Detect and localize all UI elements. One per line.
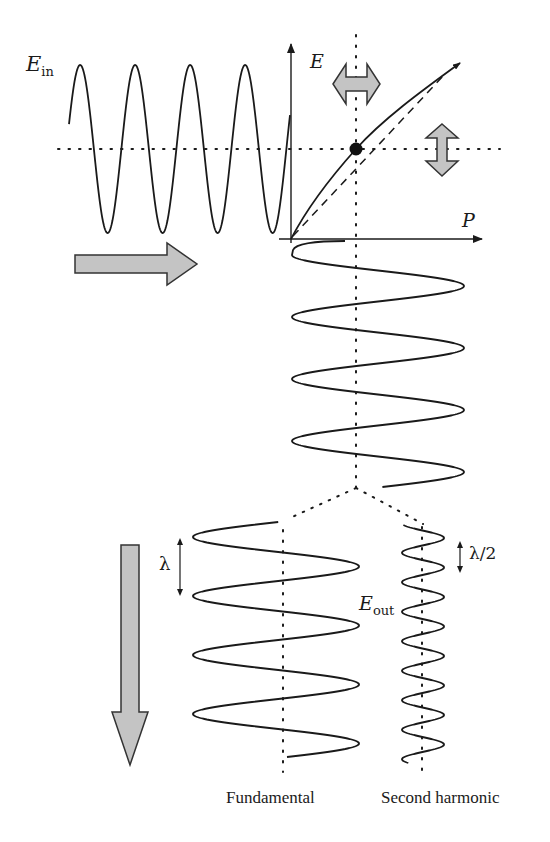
e-in-symbol: E bbox=[26, 52, 41, 76]
half-lambda-label: λ/2 bbox=[469, 543, 496, 563]
p-axis-label: P bbox=[462, 209, 475, 231]
operating-point-dot bbox=[350, 143, 363, 156]
e-out-symbol: E bbox=[359, 592, 373, 614]
lambda-label: λ bbox=[159, 553, 170, 574]
fundamental-caption: Fundamental bbox=[226, 788, 315, 808]
output-polarization-wave bbox=[292, 241, 464, 487]
e-out-label: Eout bbox=[359, 592, 394, 614]
right-arrow-icon bbox=[75, 243, 197, 285]
second-harmonic-caption: Second harmonic bbox=[381, 788, 500, 808]
fundamental-wave bbox=[193, 522, 359, 757]
e-out-subscript: out bbox=[373, 603, 394, 618]
nonlinear-polarization-diagram bbox=[0, 0, 550, 842]
split-dotted-left bbox=[290, 488, 356, 518]
e-axis-label: E bbox=[310, 50, 324, 72]
e-in-label: Ein bbox=[26, 52, 54, 76]
down-arrow-icon bbox=[112, 545, 148, 765]
half-lambda-marker-icon bbox=[457, 541, 463, 573]
split-dotted-right bbox=[356, 488, 423, 524]
e-in-subscript: in bbox=[41, 64, 54, 79]
lambda-marker-icon bbox=[177, 538, 183, 596]
vertical-double-arrow-icon bbox=[426, 124, 458, 176]
